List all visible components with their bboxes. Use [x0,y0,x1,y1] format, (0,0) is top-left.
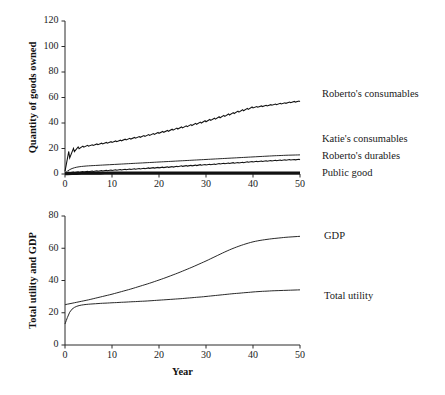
x-tick-label: 10 [107,349,117,360]
y-tick-label: 0 [54,167,59,178]
series-label-robertos-consumables: Roberto's consumables [322,89,419,100]
chart-panel-bottom: 02040608001020304050Total utility and GD… [0,195,445,395]
chart-panel-top: 02040608010012001020304050Quantity of go… [0,0,445,200]
y-axis-title: Quantity of goods owned [27,41,38,153]
series-line-public-good [65,173,300,174]
x-tick-label: 10 [107,178,117,189]
series-label-total-utility: Total utility [324,291,373,302]
y-tick-label: 120 [44,14,59,25]
x-tick-label: 0 [63,178,68,189]
x-tick-label: 0 [63,349,68,360]
top-chart-plot: 02040608010012001020304050Quantity of go… [0,0,445,200]
x-tick-label: 50 [295,349,305,360]
y-tick-label: 20 [49,306,59,317]
y-tick-label: 60 [49,242,59,253]
y-tick-label: 40 [49,116,59,127]
series-label-robertos-durables: Roberto's durables [322,151,400,162]
y-tick-label: 60 [49,91,59,102]
x-tick-label: 30 [201,349,211,360]
figure: 02040608010012001020304050Quantity of go… [0,0,445,395]
y-tick-label: 20 [49,142,59,153]
x-tick-label: 30 [201,178,211,189]
x-tick-label: 40 [248,349,258,360]
series-line-total-utility [65,290,300,324]
x-tick-label: 50 [295,178,305,189]
y-tick-label: 40 [49,274,59,285]
x-tick-label: 20 [154,178,164,189]
x-tick-label: 20 [154,349,164,360]
series-line-gdp [65,236,300,304]
series-label-gdp: GDP [324,231,345,242]
y-tick-label: 100 [44,40,59,51]
series-label-katies-consumables: Katie's consumables [322,134,408,145]
series-label-public-good: Public good [322,168,372,179]
y-tick-label: 0 [54,338,59,349]
y-axis-title: Total utility and GDP [27,232,38,329]
x-tick-label: 40 [248,178,258,189]
x-axis-title: Year [172,366,193,377]
bottom-chart-plot: 02040608001020304050Total utility and GD… [0,195,445,395]
y-tick-label: 80 [49,65,59,76]
y-tick-label: 80 [49,209,59,220]
